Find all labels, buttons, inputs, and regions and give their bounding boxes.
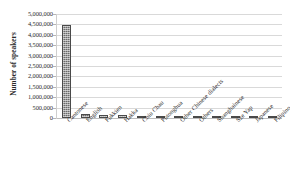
y-tick-mark bbox=[53, 87, 56, 88]
bar bbox=[62, 25, 71, 118]
y-tick-mark bbox=[53, 108, 56, 109]
bar-slot bbox=[57, 14, 76, 118]
y-tick-mark bbox=[53, 35, 56, 36]
y-tick-mark bbox=[53, 56, 56, 57]
y-tick-mark bbox=[53, 97, 56, 98]
y-tick-label: 2,000,000 bbox=[28, 73, 53, 79]
y-tick-label: 4,000,000 bbox=[28, 32, 53, 38]
y-tick-mark bbox=[53, 118, 56, 119]
y-tick-mark bbox=[53, 66, 56, 67]
y-tick-label: 5,000,000 bbox=[28, 11, 53, 17]
y-tick-mark bbox=[53, 76, 56, 77]
y-tick-mark bbox=[53, 14, 56, 15]
y-axis-tick-labels: 5,000,0004,500,0004,000,0003,500,0003,00… bbox=[0, 14, 55, 118]
bar-slot bbox=[263, 14, 282, 118]
y-tick-label: 3,000,000 bbox=[28, 52, 53, 58]
bar-slot bbox=[132, 14, 151, 118]
y-tick-label: 4,500,000 bbox=[28, 21, 53, 27]
y-tick-mark bbox=[53, 24, 56, 25]
bar-chart: Number of speakers 5,000,0004,500,0004,0… bbox=[0, 0, 290, 191]
y-tick-mark bbox=[53, 45, 56, 46]
y-tick-label: 2,500,000 bbox=[28, 63, 53, 69]
bar-slot bbox=[113, 14, 132, 118]
y-tick-label: 3,500,000 bbox=[28, 42, 53, 48]
y-tick-label: 1,000,000 bbox=[28, 94, 53, 100]
bar-slot bbox=[207, 14, 226, 118]
x-axis-tick-labels: CantoneseEnglishFukkienHakkaChiu ChauPut… bbox=[57, 119, 282, 191]
y-tick-label: 1,500,000 bbox=[28, 84, 53, 90]
bar-slot bbox=[245, 14, 264, 118]
y-tick-label: 500,000 bbox=[33, 104, 53, 110]
bar-slot bbox=[95, 14, 114, 118]
